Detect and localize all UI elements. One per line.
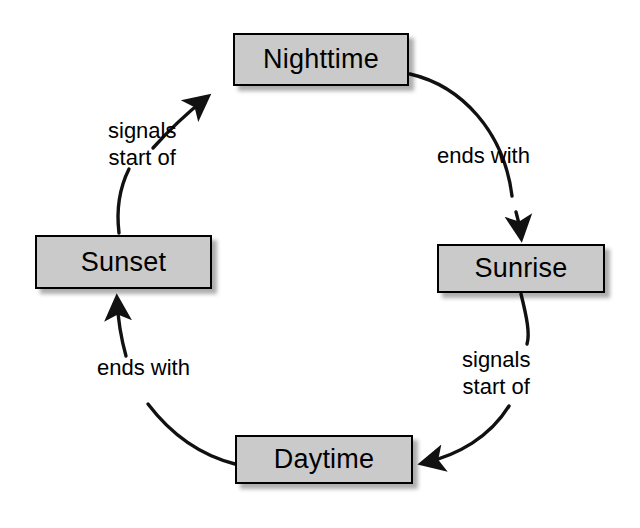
node-sunset-label: Sunset	[81, 249, 166, 276]
edge-nighttime-to-sunrise-arrow	[516, 212, 521, 236]
node-nighttime-label: Nighttime	[263, 46, 379, 73]
edge-label-line-1: ends with	[97, 355, 190, 382]
edge-label-line-1: signals	[462, 347, 530, 374]
node-nighttime[interactable]: Nighttime	[233, 33, 409, 86]
edge-label-sunrise-to-daytime: signals start of	[462, 347, 530, 401]
node-sunrise-label: Sunrise	[475, 255, 568, 282]
edge-label-line-1: ends with	[437, 143, 530, 170]
node-daytime-label: Daytime	[274, 446, 374, 473]
edge-label-line-1: signals	[108, 118, 176, 145]
edge-sunrise-to-daytime-upper	[521, 294, 528, 344]
edge-label-line-2: start of	[462, 374, 530, 401]
edge-label-nighttime-to-sunrise: ends with	[437, 143, 530, 170]
edge-label-sunset-to-nighttime: signals start of	[108, 118, 176, 172]
edge-label-daytime-to-sunset: ends with	[97, 355, 190, 382]
edge-daytime-to-sunset-arrow	[117, 300, 126, 356]
edge-sunrise-to-daytime-arrow	[424, 406, 509, 463]
edge-sunset-to-nighttime-lower	[118, 169, 129, 233]
diagram-canvas: Nighttime Sunrise Daytime Sunset signals…	[0, 0, 640, 528]
node-sunrise[interactable]: Sunrise	[437, 244, 605, 293]
edge-nighttime-to-sunrise-upper	[410, 74, 512, 196]
node-daytime[interactable]: Daytime	[235, 435, 413, 484]
edge-daytime-to-sunset-lower	[148, 404, 235, 464]
node-sunset[interactable]: Sunset	[35, 235, 212, 289]
edge-label-line-2: start of	[108, 145, 176, 172]
